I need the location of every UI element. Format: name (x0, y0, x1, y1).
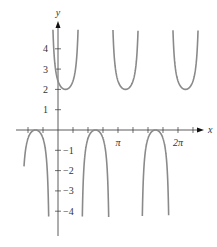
labels: π2π4321−1−2−3−4xy (43, 7, 213, 217)
x-tick-label: π (115, 137, 121, 148)
y-axis-label: y (55, 7, 61, 18)
y-tick-label: −3 (63, 185, 74, 196)
csc-curve (24, 30, 198, 217)
x-axis-label: x (207, 124, 213, 135)
y-tick-label: 1 (43, 104, 48, 115)
x-tick-label: 2π (173, 137, 184, 148)
graph: π2π4321−1−2−3−4xy (0, 0, 217, 247)
y-tick-label: 2 (43, 84, 48, 95)
y-tick-label: −4 (63, 206, 74, 217)
y-axis-arrow-icon (56, 21, 61, 28)
function-path (24, 30, 198, 217)
x-axis-arrow-icon (197, 128, 204, 133)
y-tick-label: 4 (43, 43, 48, 54)
y-tick-label: −1 (63, 145, 74, 156)
y-tick-label: −2 (63, 165, 74, 176)
y-tick-label: 3 (43, 64, 48, 75)
